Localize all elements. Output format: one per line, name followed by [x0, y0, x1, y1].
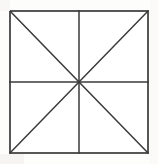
figure-canvas [0, 0, 158, 164]
geometric-figure-svg [0, 0, 158, 164]
